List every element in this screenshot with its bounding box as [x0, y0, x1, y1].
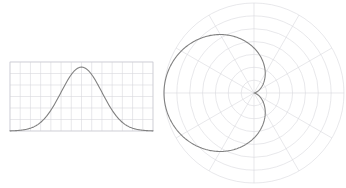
polar-plot-panel	[173, 0, 346, 188]
gaussian-bell-curve-chart	[0, 0, 173, 188]
cartesian-gridlines	[10, 62, 153, 131]
cartesian-plot-panel	[0, 0, 173, 188]
polar-cardioid-chart	[173, 0, 346, 188]
figure-canvas	[0, 0, 346, 188]
